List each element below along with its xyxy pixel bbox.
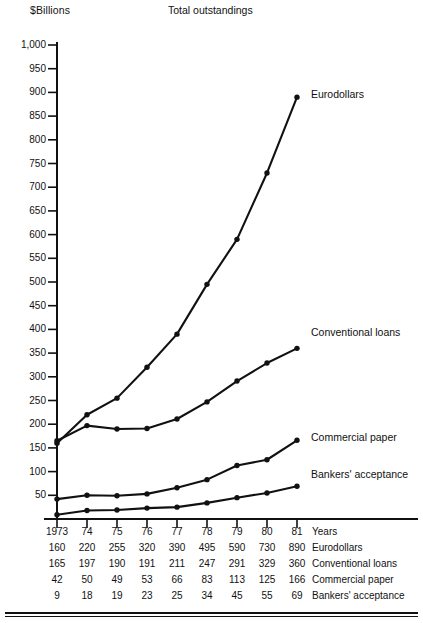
line-chart-plot bbox=[0, 0, 423, 540]
table-cell-value: 45 bbox=[222, 588, 252, 604]
table-cell-value: 113 bbox=[222, 572, 252, 588]
table-cell-value: 49 bbox=[102, 572, 132, 588]
data-point-marker bbox=[54, 496, 59, 501]
table-row-label: Conventional loans bbox=[312, 556, 423, 572]
data-point-marker bbox=[144, 491, 149, 496]
series-commercial-paper bbox=[54, 438, 299, 502]
table-row: 425049536683113125166Commercial paper bbox=[0, 572, 423, 588]
table-cell-value: 197 bbox=[72, 556, 102, 572]
table-row: 91819232534455569Bankers' acceptance bbox=[0, 588, 423, 604]
table-cell-value: 255 bbox=[102, 540, 132, 556]
table-cell-value: 160 bbox=[42, 540, 72, 556]
table-row-label: Bankers' acceptance bbox=[312, 588, 423, 604]
data-point-marker bbox=[114, 426, 119, 431]
data-point-marker bbox=[294, 94, 299, 99]
table-cell-value: 79 bbox=[222, 524, 252, 540]
table-cell-value: 53 bbox=[132, 572, 162, 588]
table-cell-value: 360 bbox=[282, 556, 312, 572]
data-point-marker bbox=[114, 395, 119, 400]
data-point-marker bbox=[84, 493, 89, 498]
table-cell-value: 42 bbox=[42, 572, 72, 588]
data-point-marker bbox=[84, 508, 89, 513]
data-point-marker bbox=[144, 365, 149, 370]
data-point-marker bbox=[84, 412, 89, 417]
data-point-marker bbox=[54, 512, 59, 517]
table-cell-value: 291 bbox=[222, 556, 252, 572]
data-point-marker bbox=[84, 423, 89, 428]
table-cell-value: 66 bbox=[162, 572, 192, 588]
bottom-rule-thick bbox=[5, 612, 418, 614]
table-row-label: Years bbox=[312, 524, 423, 540]
series-line bbox=[57, 486, 297, 514]
table-row-label: Eurodollars bbox=[312, 540, 423, 556]
table-cell-value: 23 bbox=[132, 588, 162, 604]
table-cell-value: 9 bbox=[42, 588, 72, 604]
table-cell-value: 50 bbox=[72, 572, 102, 588]
data-point-marker bbox=[234, 495, 239, 500]
data-point-marker bbox=[144, 505, 149, 510]
table-cell-value: 730 bbox=[252, 540, 282, 556]
chart-series-group bbox=[54, 94, 299, 517]
data-point-marker bbox=[234, 463, 239, 468]
data-point-marker bbox=[174, 504, 179, 509]
table-cell-value: 329 bbox=[252, 556, 282, 572]
table-cell-value: 190 bbox=[102, 556, 132, 572]
chart-axes bbox=[44, 42, 418, 528]
table-cell-value: 83 bbox=[192, 572, 222, 588]
table-cell-value: 220 bbox=[72, 540, 102, 556]
table-cell-value: 495 bbox=[192, 540, 222, 556]
table-cell-value: 76 bbox=[132, 524, 162, 540]
data-point-marker bbox=[174, 416, 179, 421]
table-row-spacer bbox=[0, 540, 42, 556]
table-row-spacer bbox=[0, 556, 42, 572]
table-cell-value: 25 bbox=[162, 588, 192, 604]
series-label-conventional-loans: Conventional loans bbox=[311, 326, 400, 338]
table-cell-value: 165 bbox=[42, 556, 72, 572]
table-row: 165197190191211247291329360Conventional … bbox=[0, 556, 423, 572]
table-cell-value: 211 bbox=[162, 556, 192, 572]
series-eurodollars bbox=[54, 94, 299, 445]
data-point-marker bbox=[264, 360, 269, 365]
data-point-marker bbox=[234, 237, 239, 242]
table-cell-value: 80 bbox=[252, 524, 282, 540]
data-point-marker bbox=[264, 170, 269, 175]
bottom-rule-thin bbox=[5, 616, 418, 617]
table-cell-value: 390 bbox=[162, 540, 192, 556]
table-cell-value: 75 bbox=[102, 524, 132, 540]
series-line bbox=[57, 348, 297, 440]
series-conventional-loans bbox=[54, 346, 299, 444]
table-cell-value: 320 bbox=[132, 540, 162, 556]
data-point-marker bbox=[144, 426, 149, 431]
table-row-spacer bbox=[0, 572, 42, 588]
table-cell-value: 55 bbox=[252, 588, 282, 604]
table-row-label: Commercial paper bbox=[312, 572, 423, 588]
data-point-marker bbox=[204, 399, 209, 404]
data-point-marker bbox=[114, 507, 119, 512]
table-cell-value: 74 bbox=[72, 524, 102, 540]
table-cell-value: 590 bbox=[222, 540, 252, 556]
chart-page: $Billions Total outstandings 1,000950900… bbox=[0, 0, 423, 623]
data-point-marker bbox=[174, 485, 179, 490]
data-point-marker bbox=[294, 484, 299, 489]
table-row-spacer bbox=[0, 524, 42, 540]
data-point-marker bbox=[234, 378, 239, 383]
table-cell-value: 19 bbox=[102, 588, 132, 604]
table-cell-value: 34 bbox=[192, 588, 222, 604]
table-cell-value: 1973 bbox=[42, 524, 72, 540]
y-axis-ticks bbox=[48, 45, 57, 495]
data-point-marker bbox=[204, 500, 209, 505]
data-point-marker bbox=[264, 490, 269, 495]
table-cell-value: 890 bbox=[282, 540, 312, 556]
data-table-grid: 19737475767778798081Years160220255320390… bbox=[0, 524, 423, 604]
data-point-marker bbox=[54, 438, 59, 443]
table-cell-value: 18 bbox=[72, 588, 102, 604]
table-cell-value: 191 bbox=[132, 556, 162, 572]
series-label-bankers-acceptance: Bankers' acceptance bbox=[311, 468, 408, 480]
series-label-commercial-paper: Commercial paper bbox=[311, 431, 397, 443]
table-cell-value: 125 bbox=[252, 572, 282, 588]
data-point-marker bbox=[294, 438, 299, 443]
series-label-eurodollars: Eurodollars bbox=[311, 88, 364, 100]
data-point-marker bbox=[114, 493, 119, 498]
table-cell-value: 78 bbox=[192, 524, 222, 540]
data-point-marker bbox=[174, 331, 179, 336]
